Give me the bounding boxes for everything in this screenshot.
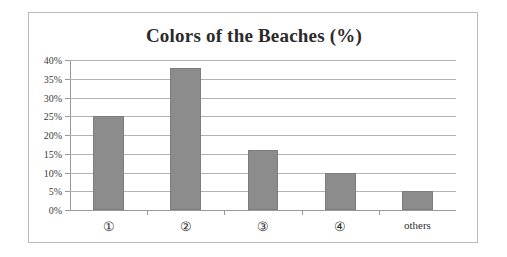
x-tick-mark [379, 210, 380, 215]
y-axis-label: 10% [44, 167, 62, 178]
y-axis-label: 30% [44, 92, 62, 103]
plot-area: 0%5%10%15%20%25%30%35%40% ①②③④others [70, 60, 456, 210]
y-axis-label: 15% [44, 148, 62, 159]
x-tick-mark [302, 210, 303, 215]
x-axis-label: ② [180, 219, 192, 235]
chart-frame: Colors of the Beaches (%) 0%5%10%15%20%2… [28, 12, 478, 243]
bar [325, 173, 356, 211]
bar [93, 116, 124, 210]
y-axis-label: 5% [49, 186, 62, 197]
bar [248, 150, 279, 210]
x-axis-label: ① [103, 219, 115, 235]
y-axis-label: 35% [44, 73, 62, 84]
x-axis-label: ③ [257, 219, 269, 235]
y-axis-label: 40% [44, 55, 62, 66]
y-tick-mark [65, 210, 70, 211]
bar [402, 191, 433, 210]
y-axis-label: 25% [44, 111, 62, 122]
chart-figure: Colors of the Beaches (%) 0%5%10%15%20%2… [0, 0, 507, 257]
bar [170, 68, 201, 211]
gridline-0% [70, 210, 456, 211]
y-axis-label: 20% [44, 130, 62, 141]
x-tick-mark [147, 210, 148, 215]
chart-title: Colors of the Beaches (%) [29, 25, 479, 47]
bars-group [70, 60, 456, 210]
y-axis-label: 0% [49, 205, 62, 216]
x-axis-label: others [404, 219, 431, 231]
x-tick-mark [224, 210, 225, 215]
x-axis-label: ④ [334, 219, 346, 235]
